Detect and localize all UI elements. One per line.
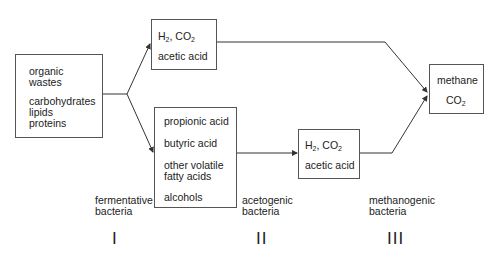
co2-label: CO2	[446, 95, 466, 109]
methane-label: methane	[437, 75, 478, 86]
final-products-box: methane CO2	[429, 64, 484, 114]
intermediate-propionic: propionic acid	[164, 116, 229, 127]
top-products-box: H2, CO2 acetic acid	[151, 19, 217, 70]
co-text: , CO	[170, 30, 192, 42]
intermediate-butyric: butyric acid	[164, 138, 217, 149]
co-text: CO	[446, 94, 462, 106]
intermediate-fatty-acids: fatty acids	[164, 171, 211, 182]
stage-3-label-line2: bacteria	[369, 206, 406, 217]
acetogenic-products-box: H2, CO2 acetic acid	[298, 129, 360, 179]
substrate-wastes: wastes	[29, 77, 62, 88]
intermediates-box: propionic acid butyric acid other volati…	[154, 107, 237, 208]
co-subscript: 2	[191, 36, 195, 43]
stage-2-label-line2: bacteria	[242, 206, 279, 217]
substrates-box: organic wastes carbohydrates lipids prot…	[15, 54, 103, 138]
h-text: H	[158, 30, 166, 42]
co-subscript: 2	[462, 100, 466, 107]
substrate-proteins: proteins	[29, 118, 66, 129]
stage-1-numeral: I	[112, 229, 118, 249]
co-subscript: 2	[338, 145, 342, 152]
diagram-canvas: organic wastes carbohydrates lipids prot…	[0, 0, 498, 254]
stage-3-numeral: III	[387, 229, 404, 249]
h-text: H	[305, 139, 313, 151]
mid-acid-label: acetic acid	[305, 160, 355, 171]
stage-2-numeral: II	[256, 229, 267, 249]
intermediate-alcohols: alcohols	[164, 192, 203, 203]
stage-1-label-line2: bacteria	[95, 206, 132, 217]
mid-gas-label: H2, CO2	[305, 140, 342, 154]
top-acid-label: acetic acid	[158, 51, 208, 62]
co-text: , CO	[317, 139, 339, 151]
top-gas-label: H2, CO2	[158, 31, 195, 45]
